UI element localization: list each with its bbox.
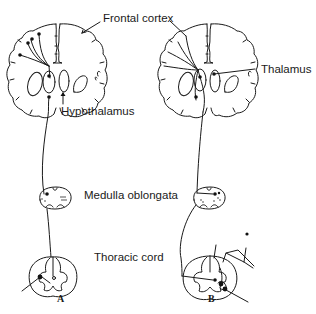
brain-b: [158, 21, 258, 193]
pathway-a-descending: [42, 97, 49, 194]
brain-a-cortical-tracts: [20, 35, 50, 78]
diagram-drawing: [0, 0, 316, 314]
thoracic-cord-a: [22, 257, 77, 297]
label-thalamus: Thalamus: [261, 64, 312, 76]
label-thoracic-cord: Thoracic cord: [94, 252, 164, 264]
brain-b-right-hemisphere: [211, 24, 258, 117]
brain-b-left-hemisphere: [158, 24, 207, 118]
thoracic-cord-b: [182, 232, 254, 302]
brain-a-right-hemisphere: [60, 24, 107, 117]
medulla-a: [40, 187, 71, 257]
diagram-canvas: Frontal cortex Thalamus Hypothalamus Med…: [0, 0, 316, 314]
panel-label-a: A: [57, 294, 64, 304]
label-medulla-oblongata: Medulla oblongata: [84, 190, 178, 202]
label-frontal-cortex: Frontal cortex: [103, 13, 173, 25]
label-hypothalamus: Hypothalamus: [61, 106, 135, 118]
panel-label-b: B: [208, 294, 215, 304]
pathway-b-descending: [197, 112, 203, 193]
